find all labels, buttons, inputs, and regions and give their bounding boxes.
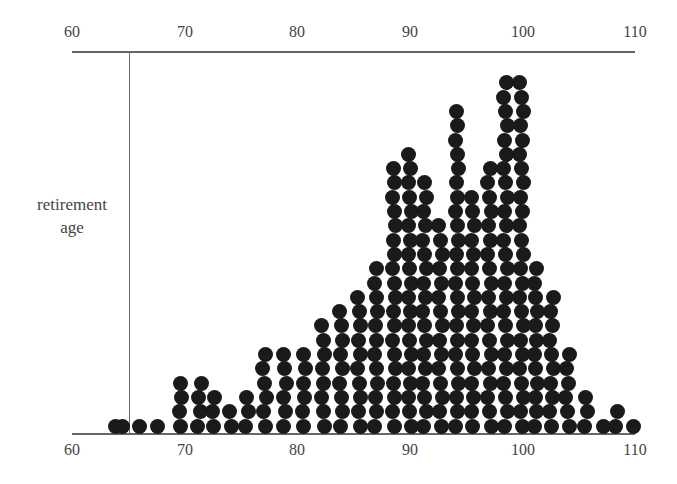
data-dot bbox=[367, 276, 382, 291]
data-dot bbox=[481, 218, 496, 233]
data-dot bbox=[514, 376, 529, 391]
data-dot bbox=[626, 419, 641, 434]
bottom-tick-100: 100 bbox=[511, 441, 535, 459]
data-dot bbox=[449, 318, 464, 333]
data-dot bbox=[369, 290, 384, 305]
data-dot bbox=[497, 347, 512, 362]
data-dot bbox=[370, 304, 385, 319]
data-dot bbox=[480, 175, 495, 190]
data-dot bbox=[386, 304, 401, 319]
data-dot bbox=[497, 276, 512, 291]
data-dot bbox=[332, 304, 347, 319]
data-dot bbox=[238, 419, 253, 434]
data-dot bbox=[580, 404, 595, 419]
data-dot bbox=[449, 390, 464, 405]
data-dot bbox=[527, 419, 542, 434]
data-dot bbox=[482, 261, 497, 276]
data-dot bbox=[417, 247, 432, 262]
data-dot bbox=[435, 247, 450, 262]
data-dot bbox=[367, 347, 382, 362]
data-dot bbox=[496, 304, 511, 319]
data-dot bbox=[279, 376, 294, 391]
top-axis-line bbox=[72, 51, 635, 53]
data-dot bbox=[132, 419, 147, 434]
data-dot bbox=[448, 419, 463, 434]
data-dot bbox=[431, 361, 446, 376]
data-dot bbox=[402, 190, 417, 205]
data-dot bbox=[480, 390, 495, 405]
data-dot bbox=[513, 118, 528, 133]
data-dot bbox=[334, 390, 349, 405]
data-dot bbox=[514, 161, 529, 176]
data-dot bbox=[515, 204, 530, 219]
data-dot bbox=[610, 404, 625, 419]
data-dot bbox=[334, 318, 349, 333]
data-dot bbox=[369, 361, 384, 376]
data-dot bbox=[434, 276, 449, 291]
data-dot bbox=[544, 419, 559, 434]
data-dot bbox=[450, 147, 465, 162]
data-dot bbox=[352, 376, 367, 391]
data-dot bbox=[315, 361, 330, 376]
data-dot bbox=[191, 390, 206, 405]
data-dot bbox=[433, 233, 448, 248]
data-dot bbox=[464, 233, 479, 248]
data-dot bbox=[464, 376, 479, 391]
data-dot bbox=[417, 175, 432, 190]
data-dot bbox=[295, 404, 310, 419]
data-dot bbox=[386, 233, 401, 248]
data-dot bbox=[172, 404, 187, 419]
data-dot bbox=[387, 347, 402, 362]
data-dot bbox=[514, 90, 529, 105]
data-dot bbox=[335, 361, 350, 376]
data-dot bbox=[314, 390, 329, 405]
data-dot bbox=[496, 376, 511, 391]
top-tick-100: 100 bbox=[511, 23, 535, 41]
data-dot bbox=[277, 361, 292, 376]
data-dot bbox=[416, 276, 431, 291]
data-dot bbox=[434, 419, 449, 434]
data-dot bbox=[542, 333, 557, 348]
data-dot bbox=[516, 104, 531, 119]
data-dot bbox=[174, 390, 189, 405]
data-dot bbox=[450, 290, 465, 305]
data-dot bbox=[332, 376, 347, 391]
data-dot bbox=[546, 290, 561, 305]
data-dot bbox=[385, 190, 400, 205]
data-dot bbox=[498, 104, 513, 119]
data-dot bbox=[387, 419, 402, 434]
data-dot bbox=[435, 318, 450, 333]
data-dot bbox=[449, 247, 464, 262]
data-dot bbox=[433, 304, 448, 319]
data-dot bbox=[467, 290, 482, 305]
data-dot bbox=[276, 419, 291, 434]
data-dot bbox=[467, 218, 482, 233]
data-dot bbox=[353, 390, 368, 405]
data-dot bbox=[416, 347, 431, 362]
data-dot bbox=[190, 419, 205, 434]
data-dot bbox=[464, 190, 479, 205]
data-dot bbox=[370, 376, 385, 391]
data-dot bbox=[115, 419, 130, 434]
data-dot bbox=[296, 376, 311, 391]
data-dot bbox=[239, 390, 254, 405]
data-dot bbox=[608, 419, 623, 434]
data-dot bbox=[255, 361, 270, 376]
data-dot bbox=[419, 190, 434, 205]
data-dot bbox=[335, 333, 350, 348]
data-dot bbox=[516, 247, 531, 262]
data-dot bbox=[369, 404, 384, 419]
bottom-tick-90: 90 bbox=[402, 441, 418, 459]
data-dot bbox=[417, 390, 432, 405]
data-dot bbox=[432, 261, 447, 276]
data-dot bbox=[481, 361, 496, 376]
data-dot bbox=[401, 218, 416, 233]
data-dot bbox=[482, 333, 497, 348]
data-dot bbox=[206, 419, 221, 434]
data-dot bbox=[317, 419, 332, 434]
top-tick-110: 110 bbox=[623, 23, 646, 41]
data-dot bbox=[433, 376, 448, 391]
data-dot bbox=[194, 376, 209, 391]
data-dot bbox=[498, 247, 513, 262]
data-dot bbox=[205, 404, 220, 419]
